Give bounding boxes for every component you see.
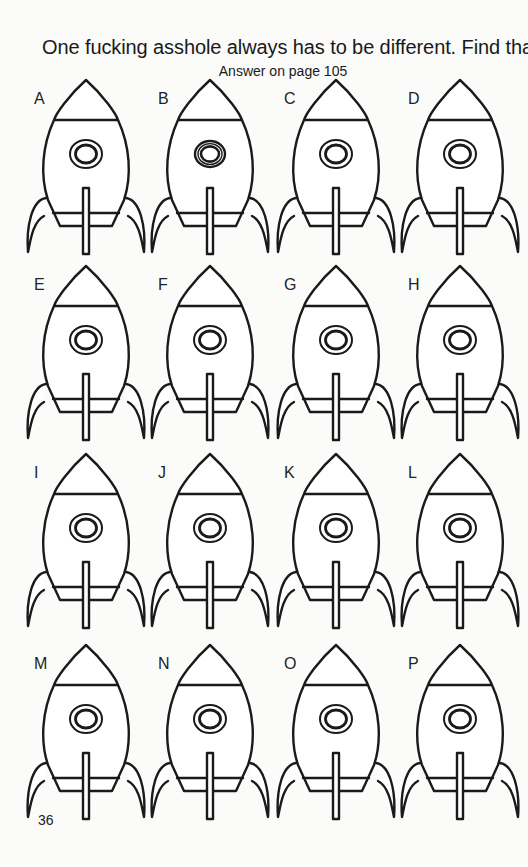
rocket-label: H — [408, 276, 420, 294]
rocket-label: N — [158, 655, 170, 673]
rocket-label: B — [158, 90, 169, 108]
rocket-b[interactable]: B — [148, 76, 272, 260]
rocket-label: A — [34, 90, 45, 108]
rocket-label: M — [34, 655, 47, 673]
rocket-label: E — [34, 276, 45, 294]
rocket-m[interactable]: M — [24, 641, 148, 825]
rocket-p[interactable]: P — [398, 641, 522, 825]
rocket-label: L — [408, 464, 417, 482]
rocket-label: O — [284, 655, 296, 673]
rocket-h[interactable]: H — [398, 262, 522, 446]
rocket-label: K — [284, 464, 295, 482]
rocket-d[interactable]: D — [398, 76, 522, 260]
rocket-label: J — [158, 464, 166, 482]
rocket-label: C — [284, 90, 296, 108]
rocket-a[interactable]: A — [24, 76, 148, 260]
rocket-c[interactable]: C — [274, 76, 398, 260]
rocket-k[interactable]: K — [274, 450, 398, 634]
rocket-icon — [24, 450, 148, 634]
rocket-f[interactable]: F — [148, 262, 272, 446]
rocket-label: I — [34, 464, 38, 482]
rocket-j[interactable]: J — [148, 450, 272, 634]
rocket-label: F — [158, 276, 168, 294]
rocket-i[interactable]: I — [24, 450, 148, 634]
rocket-label: G — [284, 276, 296, 294]
rocket-o[interactable]: O — [274, 641, 398, 825]
rocket-grid: A B — [0, 0, 528, 867]
page-number: 36 — [38, 812, 54, 828]
rocket-icon — [148, 450, 272, 634]
rocket-g[interactable]: G — [274, 262, 398, 446]
rocket-n[interactable]: N — [148, 641, 272, 825]
rocket-label: P — [408, 655, 419, 673]
rocket-label: D — [408, 90, 420, 108]
rocket-e[interactable]: E — [24, 262, 148, 446]
rocket-l[interactable]: L — [398, 450, 522, 634]
